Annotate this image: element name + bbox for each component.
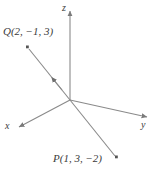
point-label-q: Q(2, −1, 3) [3,26,53,37]
x-axis [19,100,70,127]
segment-origin-to-q [29,49,70,100]
three-d-axes-figure: z x y Q(2, −1, 3) P(1, 3, −2) [0,0,162,174]
z-axis-label: z [62,3,66,13]
x-axis-label: x [5,121,9,131]
point-marker-p [115,156,118,159]
y-axis-label: y [141,120,145,130]
segment-direction-arrow [53,79,62,90]
point-marker-q [26,46,29,49]
point-label-p: P(1, 3, −2) [53,153,102,164]
